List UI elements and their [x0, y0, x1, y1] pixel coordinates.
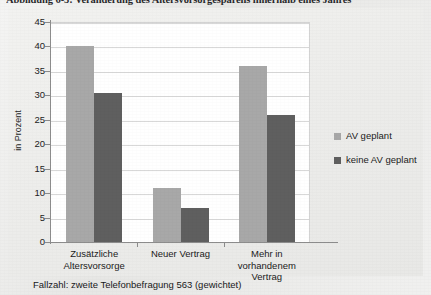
y-axis-tick-mark [45, 120, 50, 121]
figure-caption: Abbildung 6-5: Veränderung des Altersvor… [6, 0, 426, 6]
y-axis-tick-mark [45, 169, 50, 170]
y-axis-tick-mark [45, 95, 50, 96]
legend-item: keine AV geplant [334, 155, 431, 165]
x-axis-category-label: Mehr in vorhandenem Vertrag [224, 248, 310, 283]
y-axis-tick-label: 30 [17, 90, 45, 100]
y-axis-tick-label: 0 [17, 237, 45, 247]
plot-area [51, 22, 310, 242]
y-axis-tick-label: 10 [17, 188, 45, 198]
plot-inner [51, 23, 309, 242]
x-axis-line [50, 242, 338, 243]
bar [181, 208, 209, 242]
y-axis-tick-mark [45, 46, 50, 47]
y-axis-tick-mark [45, 242, 50, 243]
legend-item: AV geplant [334, 131, 431, 141]
y-axis-tick-label: 5 [17, 213, 45, 223]
y-axis-tick-mark [45, 144, 50, 145]
bar [153, 188, 181, 242]
chart-frame: 051015202530354045 in Prozent AV geplant… [9, 8, 423, 276]
bar [94, 93, 122, 242]
x-axis-category-label: Zusätzliche Altersvorsorge [51, 248, 137, 271]
legend-label: AV geplant [346, 131, 392, 141]
chart-legend: AV geplantkeine AV geplant [334, 131, 431, 179]
figure-footnote: Fallzahl: zweite Telefonbefragung 563 (g… [33, 279, 241, 290]
x-axis-category-label: Neuer Vertrag [137, 248, 223, 260]
y-axis-tick-mark [45, 218, 50, 219]
x-axis-tick-mark [137, 243, 138, 247]
x-axis-tick-mark [224, 243, 225, 247]
scanned-page: Abbildung 6-5: Veränderung des Altersvor… [0, 0, 431, 295]
y-axis-tick-mark [45, 22, 50, 23]
y-axis-tick-label: 15 [17, 164, 45, 174]
y-axis-tick-label: 45 [17, 17, 45, 27]
y-axis-tick-mark [45, 71, 50, 72]
y-axis-tick-mark [45, 193, 50, 194]
bar [66, 46, 94, 242]
bar [239, 66, 267, 242]
gridline [51, 23, 309, 24]
y-axis-tick-label: 35 [17, 66, 45, 76]
y-axis-tick-label: 40 [17, 41, 45, 51]
legend-swatch-icon [334, 133, 341, 140]
bar [267, 115, 295, 242]
legend-swatch-icon [334, 157, 341, 164]
legend-label: keine AV geplant [346, 155, 417, 165]
y-axis-title: in Prozent [14, 101, 23, 161]
